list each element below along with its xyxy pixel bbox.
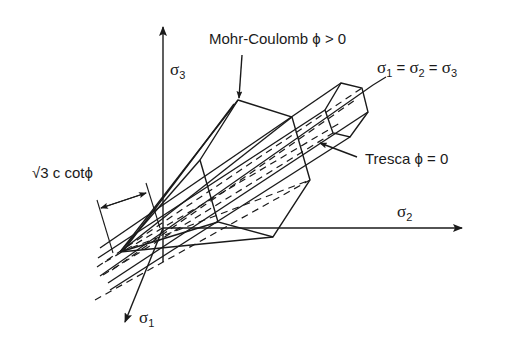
sigma-symbol: σ <box>139 308 148 327</box>
sigma-symbol: σ <box>377 58 386 77</box>
sigma-symbol: σ <box>397 202 406 221</box>
subscript: 1 <box>148 317 154 329</box>
hydrostatic-axis <box>100 85 373 276</box>
equals: = <box>392 59 409 76</box>
tresca-label: Tresca ϕ = 0 <box>365 150 448 167</box>
equals: = <box>425 59 442 76</box>
sigma-symbol: σ <box>170 60 179 79</box>
mohr-coulomb-leader <box>239 55 242 98</box>
apex-distance-label: √3 c cotϕ <box>32 164 93 181</box>
subscript: 3 <box>451 67 457 79</box>
axis-sigma1-label: σ1 <box>139 308 154 329</box>
mohr-coulomb-pyramid <box>120 100 310 252</box>
axis-sigma2-label: σ2 <box>397 202 412 223</box>
yield-surface-diagram: Mohr-Coulomb ϕ > 0 Tresca ϕ = 0 σ1 = σ2 … <box>0 0 511 342</box>
hydrostatic-axis-label: σ1 = σ2 = σ3 <box>377 58 457 79</box>
sigma-symbol: σ <box>442 58 451 77</box>
subscript: 2 <box>406 211 412 223</box>
subscript: 3 <box>179 69 185 81</box>
mohr-coulomb-label: Mohr-Coulomb ϕ > 0 <box>209 30 346 47</box>
tresca-prism <box>95 83 368 300</box>
sigma-symbol: σ <box>409 58 418 77</box>
axis-sigma3-label: σ3 <box>170 60 185 81</box>
